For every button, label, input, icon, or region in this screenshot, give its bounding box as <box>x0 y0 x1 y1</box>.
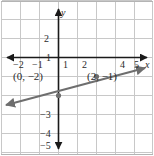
y-tick-label-2: 2 <box>44 34 49 44</box>
point-label-right: (2, −1) <box>87 71 117 82</box>
x-tick-label-neg2: −2 <box>13 60 24 70</box>
x-axis-label: x <box>145 60 149 70</box>
coordinate-plane-figure: 2 1 −3 −4 −5 −2 −1 1 2 4 5 y x (0, −2) (… <box>0 0 154 156</box>
x-tick-label-neg1: −1 <box>32 60 43 70</box>
y-tick-label-neg4: −4 <box>40 129 51 139</box>
y-tick-label-neg5: −5 <box>40 141 51 151</box>
x-tick-label-2: 2 <box>82 60 87 70</box>
x-tick-label-5: 5 <box>134 60 139 70</box>
plotted-point-0-neg2 <box>56 93 61 98</box>
point-label-left: (0, −2) <box>13 71 43 82</box>
y-tick-label-neg3: −3 <box>40 110 51 120</box>
x-tick-label-4: 4 <box>120 60 125 70</box>
y-tick-label-1: 1 <box>46 53 51 63</box>
x-tick-label-1: 1 <box>63 60 68 70</box>
y-axis-label: y <box>61 8 65 18</box>
